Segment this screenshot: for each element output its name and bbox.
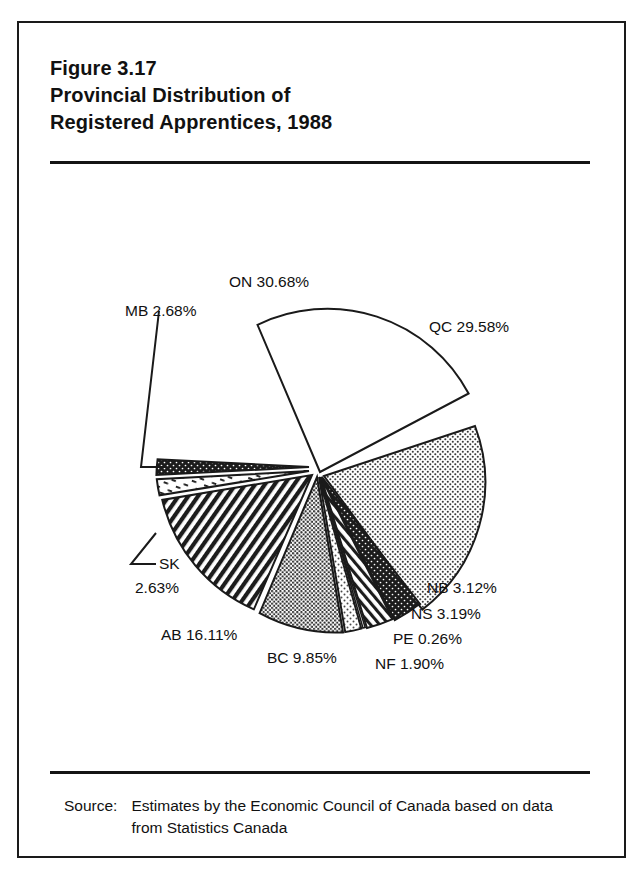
pie-label-pe: PE 0.26% <box>393 630 462 647</box>
pie-label-nf: NF 1.90% <box>375 655 444 672</box>
pie-label-ab: AB 16.11% <box>161 626 238 643</box>
leader-line-mb <box>141 311 165 467</box>
pie-label-qc: QC 29.58% <box>429 318 509 335</box>
pie-label-on: ON 30.68% <box>229 273 309 290</box>
source-note: Source: Estimates by the Economic Counci… <box>64 795 594 839</box>
pie-label-sk-line-1: SK <box>159 555 180 572</box>
pie-chart: ON 30.68% QC 29.58% MB 2.68% NB 3.12% NS… <box>19 23 628 860</box>
pie-label-sk-line-2: 2.63% <box>135 579 179 596</box>
source-text: Estimates by the Economic Council of Can… <box>131 795 561 839</box>
source-divider <box>50 771 590 774</box>
leader-line-sk <box>131 533 156 564</box>
pie-chart-svg: ON 30.68% QC 29.58% MB 2.68% NB 3.12% NS… <box>19 23 628 860</box>
source-label: Source: <box>64 795 117 817</box>
pie-label-bc: BC 9.85% <box>267 649 337 666</box>
pie-label-mb: MB 2.68% <box>125 302 197 319</box>
figure-frame: Figure 3.17 Provincial Distribution of R… <box>17 21 626 858</box>
pie-leader-lines <box>131 311 165 564</box>
pie-label-nb: NB 3.12% <box>427 579 497 596</box>
pie-label-ns: NS 3.19% <box>411 605 481 622</box>
